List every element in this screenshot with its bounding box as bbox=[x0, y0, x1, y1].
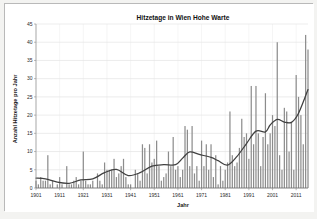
bar-2006 bbox=[284, 108, 285, 188]
x-tick-1941: 1941 bbox=[125, 192, 136, 198]
y-tick-15: 15 bbox=[27, 130, 33, 136]
y-tick-5: 5 bbox=[30, 167, 33, 173]
chart-svg: 051015202530354045 190119111921193119411… bbox=[5, 4, 314, 212]
bar-2004 bbox=[279, 155, 280, 188]
bar-2012 bbox=[298, 97, 299, 188]
bar-2003 bbox=[277, 42, 278, 188]
bar-1930 bbox=[104, 162, 105, 188]
bar-1927 bbox=[97, 173, 98, 188]
bar-1910 bbox=[57, 184, 58, 188]
bar-1989 bbox=[244, 137, 245, 188]
x-tick-1991: 1991 bbox=[243, 192, 254, 198]
bar-1997 bbox=[262, 137, 263, 188]
bar-1920 bbox=[80, 181, 81, 188]
bar-2000 bbox=[270, 133, 271, 188]
bar-1956 bbox=[165, 173, 166, 188]
y-axis-title: Anzahl Hitzetage pro Jahr bbox=[12, 74, 18, 144]
bar-1988 bbox=[241, 119, 242, 188]
bar-2011 bbox=[296, 75, 297, 188]
bar-1923 bbox=[87, 184, 88, 188]
bar-2009 bbox=[291, 122, 292, 188]
bar-1934 bbox=[113, 159, 114, 188]
bar-1965 bbox=[187, 130, 188, 188]
bar-1928 bbox=[99, 181, 100, 188]
bar-1933 bbox=[111, 170, 112, 188]
bar-1976 bbox=[213, 177, 214, 188]
bar-1971 bbox=[201, 141, 202, 188]
bar-1954 bbox=[161, 181, 162, 188]
y-tick-10: 10 bbox=[27, 148, 33, 154]
y-tick-35: 35 bbox=[27, 57, 33, 63]
bar-1937 bbox=[121, 166, 122, 188]
x-tick-1971: 1971 bbox=[196, 192, 207, 198]
bar-2001 bbox=[272, 115, 273, 188]
bar-1975 bbox=[210, 144, 211, 188]
y-tick-20: 20 bbox=[27, 112, 33, 118]
bar-1945 bbox=[139, 181, 140, 188]
bar-2015 bbox=[305, 35, 306, 188]
bar-1972 bbox=[203, 166, 204, 188]
y-tick-40: 40 bbox=[27, 39, 33, 45]
bar-2010 bbox=[293, 170, 294, 188]
bar-1918 bbox=[76, 177, 77, 188]
bar-1935 bbox=[116, 177, 117, 188]
bar-1904 bbox=[42, 181, 43, 188]
bar-1960 bbox=[175, 170, 176, 188]
y-tick-30: 30 bbox=[27, 75, 33, 81]
bar-1980 bbox=[222, 181, 223, 188]
bar-1952 bbox=[156, 141, 157, 188]
bar-2002 bbox=[274, 126, 275, 188]
bar-1995 bbox=[258, 133, 259, 188]
bar-1986 bbox=[236, 162, 237, 188]
bar-1981 bbox=[225, 170, 226, 188]
bar-1959 bbox=[173, 137, 174, 188]
x-tick-2011: 2011 bbox=[291, 192, 302, 198]
bar-1902 bbox=[38, 184, 39, 188]
bar-1963 bbox=[182, 170, 183, 188]
bar-1914 bbox=[66, 166, 67, 188]
bar-2014 bbox=[303, 144, 304, 188]
bar-1947 bbox=[144, 148, 145, 188]
bar-1999 bbox=[267, 144, 268, 188]
y-tick-45: 45 bbox=[27, 21, 33, 27]
bar-1970 bbox=[199, 181, 200, 188]
bar-1966 bbox=[189, 166, 190, 188]
bar-1974 bbox=[208, 170, 209, 188]
bar-1991 bbox=[248, 159, 249, 188]
x-tick-1911: 1911 bbox=[54, 192, 65, 198]
bar-1906 bbox=[47, 155, 48, 188]
bar-1916 bbox=[71, 184, 72, 188]
bar-1915 bbox=[69, 184, 70, 188]
bar-1921 bbox=[83, 152, 84, 188]
chart-paper: 051015202530354045 190119111921193119411… bbox=[4, 3, 313, 211]
bar-1990 bbox=[246, 133, 247, 188]
bar-1993 bbox=[253, 144, 254, 188]
x-tick-1931: 1931 bbox=[101, 192, 112, 198]
bar-1925 bbox=[92, 181, 93, 188]
bar-1955 bbox=[163, 177, 164, 188]
x-tick-1901: 1901 bbox=[30, 192, 41, 198]
bar-1919 bbox=[78, 184, 79, 188]
bar-1946 bbox=[142, 144, 143, 188]
bar-1961 bbox=[177, 166, 178, 188]
bar-1905 bbox=[45, 181, 46, 188]
bar-1958 bbox=[170, 166, 171, 188]
bar-1941 bbox=[130, 184, 131, 188]
bar-1962 bbox=[180, 177, 181, 188]
bar-1940 bbox=[128, 184, 129, 188]
bar-1968 bbox=[194, 173, 195, 188]
bar-1984 bbox=[232, 155, 233, 188]
x-tick-1921: 1921 bbox=[78, 192, 89, 198]
bar-1996 bbox=[260, 166, 261, 188]
bar-1922 bbox=[85, 181, 86, 188]
bar-1978 bbox=[218, 184, 219, 188]
x-tick-1981: 1981 bbox=[220, 192, 231, 198]
bar-1907 bbox=[50, 184, 51, 188]
bar-1985 bbox=[234, 166, 235, 188]
bar-1973 bbox=[206, 144, 207, 188]
bar-2008 bbox=[288, 152, 289, 188]
bar-1929 bbox=[102, 184, 103, 188]
chart-title: Hitzetage in Wien Hohe Warte bbox=[137, 14, 230, 22]
bar-1924 bbox=[90, 184, 91, 188]
bar-1949 bbox=[149, 144, 150, 188]
